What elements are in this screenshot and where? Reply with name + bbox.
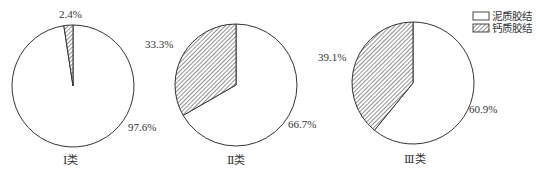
slice-label-calcareous: 33.3% <box>145 38 173 50</box>
slice-label-mud: 66.7% <box>288 118 316 130</box>
pie-charts: 2.4% 97.6% Ⅰ类 33.3% 66.7% Ⅱ类 39.1% 60.9%… <box>0 0 541 180</box>
pie-title: Ⅰ类 <box>63 153 78 167</box>
pie-class-2: 33.3% 66.7% Ⅱ类 <box>145 24 316 167</box>
legend-label-calcareous: 钙质胶结 <box>492 22 532 34</box>
pie-title: Ⅱ类 <box>227 153 245 167</box>
legend-swatch-mud <box>473 12 489 20</box>
pie-class-1: 2.4% 97.6% Ⅰ类 <box>12 8 156 167</box>
slice-label-mud: 60.9% <box>469 103 497 115</box>
slice-label-calcareous: 39.1% <box>318 51 346 63</box>
pie-class-3: 39.1% 60.9% Ⅲ类 <box>318 22 497 166</box>
legend: 泥质胶结 钙质胶结 <box>473 10 532 34</box>
pie-title: Ⅲ类 <box>404 152 426 166</box>
legend-swatch-calcareous <box>473 24 489 32</box>
legend-label-mud: 泥质胶结 <box>492 10 532 22</box>
slice-label-mud: 97.6% <box>128 121 156 133</box>
slice-label-calcareous: 2.4% <box>59 8 82 20</box>
